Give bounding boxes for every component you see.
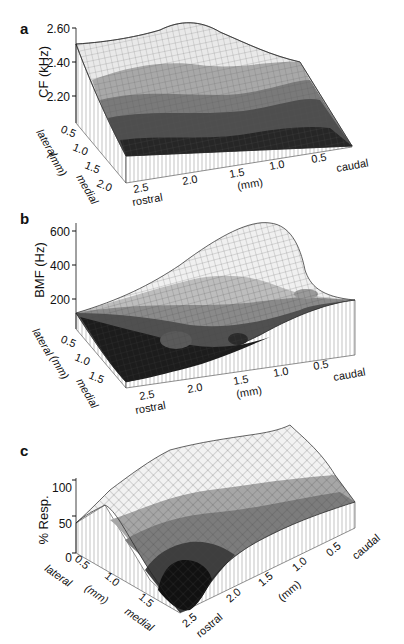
y-tick: 0.5 xyxy=(59,333,78,350)
x-tick: 0.5 xyxy=(312,357,329,371)
x-end-label: caudal xyxy=(350,531,383,561)
y-start-label: lateral xyxy=(43,562,75,589)
y-unit-label: (mm) xyxy=(48,353,71,382)
z-tick: 2.60 xyxy=(47,22,71,36)
z-tick: 0 xyxy=(65,551,72,565)
x-tick: 1.5 xyxy=(228,165,245,179)
surface-plot-c: 100 50 0 % Resp. 0.5 1.0 1.5 lateral (mm… xyxy=(0,420,404,644)
x-tick: 1.0 xyxy=(268,157,285,171)
y-end-label: medial xyxy=(74,172,101,207)
z-tick: 200 xyxy=(50,293,70,307)
y-unit-label: (mm) xyxy=(46,150,69,179)
z-tick: 400 xyxy=(50,259,70,273)
z-tick: 50 xyxy=(59,517,73,531)
z-axis-label: % Resp. xyxy=(36,495,51,544)
x-end-label: caudal xyxy=(335,157,369,174)
x-tick: 2.5 xyxy=(180,611,199,630)
panel-a: a 2.60 2.40 2.20 CF (kHz) 0.5 xyxy=(0,0,404,205)
z-axis-label: BMF (Hz) xyxy=(32,242,47,298)
z-tick: 100 xyxy=(52,481,72,495)
x-tick: 1.5 xyxy=(232,372,249,386)
x-start-label: rostral xyxy=(134,399,166,416)
surface-plot-b: 600 400 200 BMF (Hz) 0.5 1.0 1.5 lateral… xyxy=(0,205,404,420)
x-tick: 0.5 xyxy=(310,150,327,164)
x-tick: 1.0 xyxy=(272,364,289,378)
x-start-label: rostral xyxy=(194,611,225,640)
x-unit-label: (mm) xyxy=(235,384,262,400)
panel-c: c 100 50 0 % Resp. 0.5 1.0 xyxy=(0,420,404,644)
y-start-label: lateral xyxy=(30,326,56,358)
y-tick: 0.5 xyxy=(59,123,78,140)
x-tick: 0.5 xyxy=(324,540,343,559)
y-tick: 1.0 xyxy=(71,141,90,158)
z-axis-label: CF (kHz) xyxy=(36,46,51,98)
z-tick: 600 xyxy=(50,225,70,239)
y-tick: 1.0 xyxy=(73,351,92,368)
x-unit-label: (mm) xyxy=(276,578,303,604)
x-end-label: caudal xyxy=(332,366,366,383)
surface-plot-a: 2.60 2.40 2.20 CF (kHz) 0.5 1.0 1.5 2.0 … xyxy=(0,0,404,205)
y-tick: 2.0 xyxy=(95,177,114,194)
y-unit-label: (mm) xyxy=(83,582,111,607)
x-tick: 2.5 xyxy=(138,387,155,401)
x-tick: 2.0 xyxy=(181,172,198,186)
y-end-label: medial xyxy=(123,605,157,634)
x-tick: 2.0 xyxy=(186,380,203,394)
y-tick: 1.5 xyxy=(87,369,106,386)
panel-b: b 600 400 200 BMF (Hz) xyxy=(0,205,404,420)
